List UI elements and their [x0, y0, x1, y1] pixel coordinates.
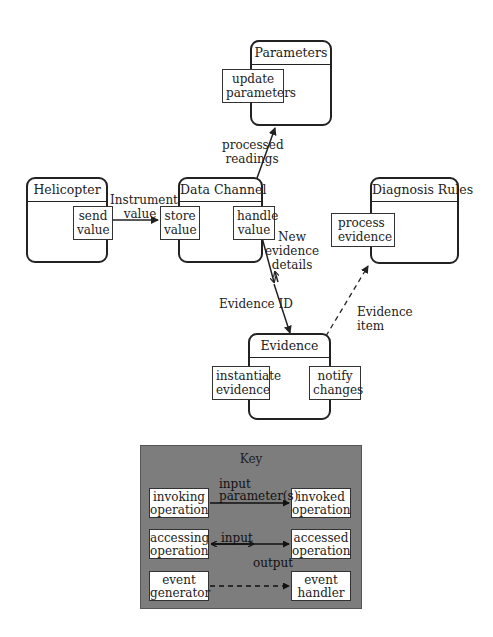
instantiate-evidence-operation[interactable]: instantiate evidence: [212, 366, 270, 400]
key-arrows: [141, 446, 363, 610]
parameters-title: Parameters: [252, 42, 330, 65]
data-channel-title: Data Channel: [180, 179, 261, 202]
processed-readings-label: processed readings: [222, 138, 282, 166]
send-value-operation[interactable]: send value: [73, 206, 113, 240]
instrument-value-label: Instrument value: [110, 193, 170, 221]
process-evidence-operation[interactable]: process evidence: [331, 213, 395, 247]
evidence-title: Evidence: [250, 335, 329, 358]
evidence-item-label: Evidence item: [357, 305, 413, 333]
evidence-id-label: Evidence ID: [219, 297, 293, 311]
update-parameters-operation[interactable]: update parameters: [222, 69, 284, 103]
helicopter-title: Helicopter: [28, 179, 106, 202]
legend-key: Key invokingoperation invokedoperation i…: [140, 445, 362, 609]
diagnosis-rules-title: Diagnosis Rules: [372, 179, 457, 202]
notify-changes-operation[interactable]: notify changes: [309, 366, 361, 400]
new-evidence-details-label: New evidence details: [262, 230, 322, 272]
